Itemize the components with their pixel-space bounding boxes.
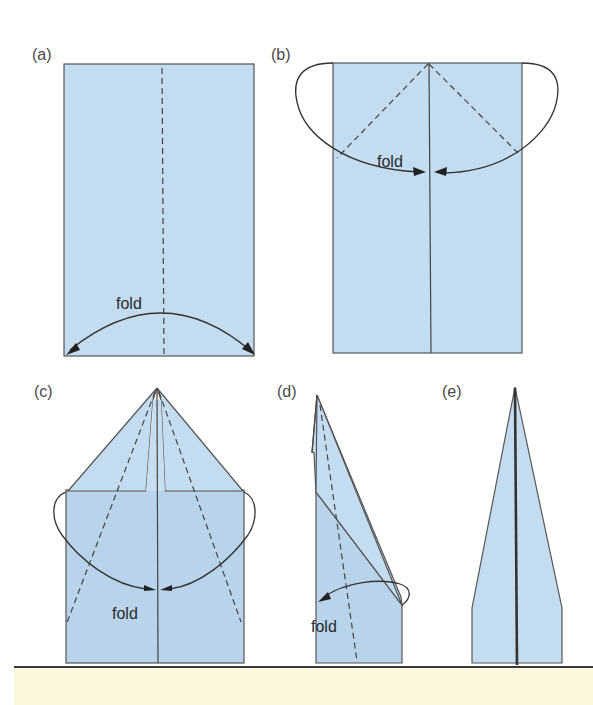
- panel-a-label: (a): [32, 46, 52, 63]
- panel-c-label: (c): [34, 383, 53, 400]
- panel-b-sheet: [333, 63, 522, 353]
- panel-c-right-flap: [157, 388, 243, 491]
- panel-c-body: [66, 490, 244, 663]
- panel-a-fold-label: fold: [116, 295, 142, 312]
- panel-d: (d) fold: [277, 383, 409, 663]
- panel-b: (b) fold: [271, 46, 558, 353]
- panel-c-fold-label: fold: [112, 605, 138, 622]
- panel-e: (e): [442, 383, 562, 665]
- panel-c-left-flap: [68, 388, 157, 491]
- panel-c: (c) fold: [34, 383, 255, 663]
- panel-e-label: (e): [442, 383, 462, 400]
- panel-b-label: (b): [271, 46, 291, 63]
- panel-b-fold-label: fold: [377, 153, 403, 170]
- footer-rule: [14, 666, 593, 705]
- panel-a-sheet: [64, 64, 254, 356]
- panel-a: (a) fold: [32, 46, 255, 356]
- panel-d-fold-label: fold: [311, 618, 337, 635]
- panel-d-label: (d): [277, 383, 297, 400]
